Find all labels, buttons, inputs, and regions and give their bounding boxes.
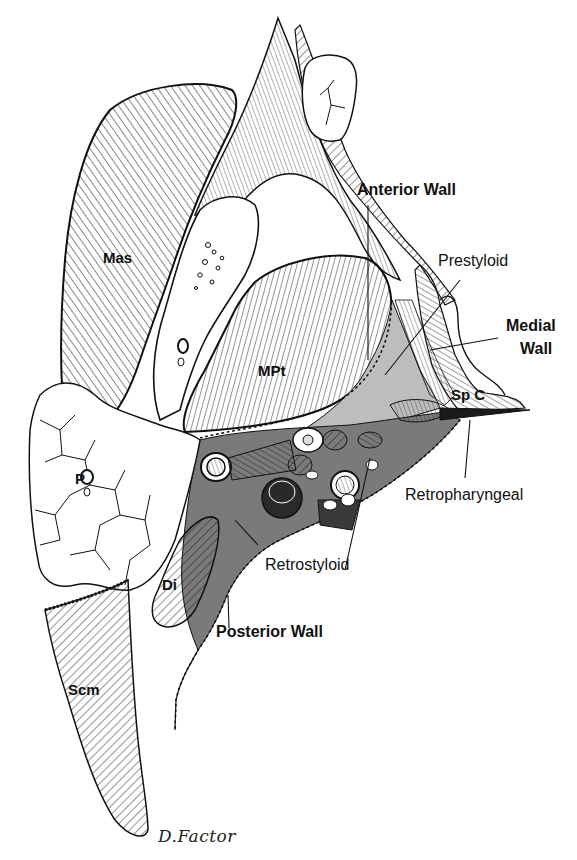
label-retrostyloid: Retrostyloid (265, 557, 349, 573)
levator-fibers (358, 432, 382, 448)
leader-retropharyngeal (465, 420, 470, 478)
label-prestyloid: Prestyloid (438, 253, 508, 269)
facial-nerve (84, 488, 90, 496)
label-medial-wall-line2: Wall (520, 341, 552, 357)
label-retropharyngeal: Retropharyngeal (405, 487, 523, 503)
label-medial-pterygoid: MPt (258, 363, 286, 378)
artist-signature: D.Factor (158, 828, 236, 845)
posterior-wall-line (175, 650, 198, 730)
styloid-muscle (323, 430, 347, 450)
anatomical-figure: Anterior Wall Prestyloid Medial Wall Sp … (0, 0, 577, 860)
foramen (178, 358, 184, 366)
label-anterior-wall: Anterior Wall (357, 182, 456, 198)
sternocleidomastoid-muscle (45, 580, 148, 836)
label-sp-c: Sp C (451, 387, 485, 402)
label-posterior-wall: Posterior Wall (216, 624, 323, 640)
label-masseter: Mas (103, 250, 132, 265)
inferior-alveolar-canal (178, 339, 188, 353)
label-sternocleidomastoid: Scm (68, 682, 100, 697)
label-medial-wall-line1: Medial (506, 318, 556, 334)
label-parotid: P (75, 471, 85, 486)
illustration-svg (0, 0, 577, 860)
nerve-white-1 (306, 471, 318, 479)
nerve-white-3 (323, 500, 337, 510)
label-digastric: Di (162, 577, 177, 592)
retrostyloid-compartment (182, 412, 460, 650)
pharyngobasilar-fascia (440, 408, 530, 420)
nerve-white-4 (341, 494, 355, 506)
